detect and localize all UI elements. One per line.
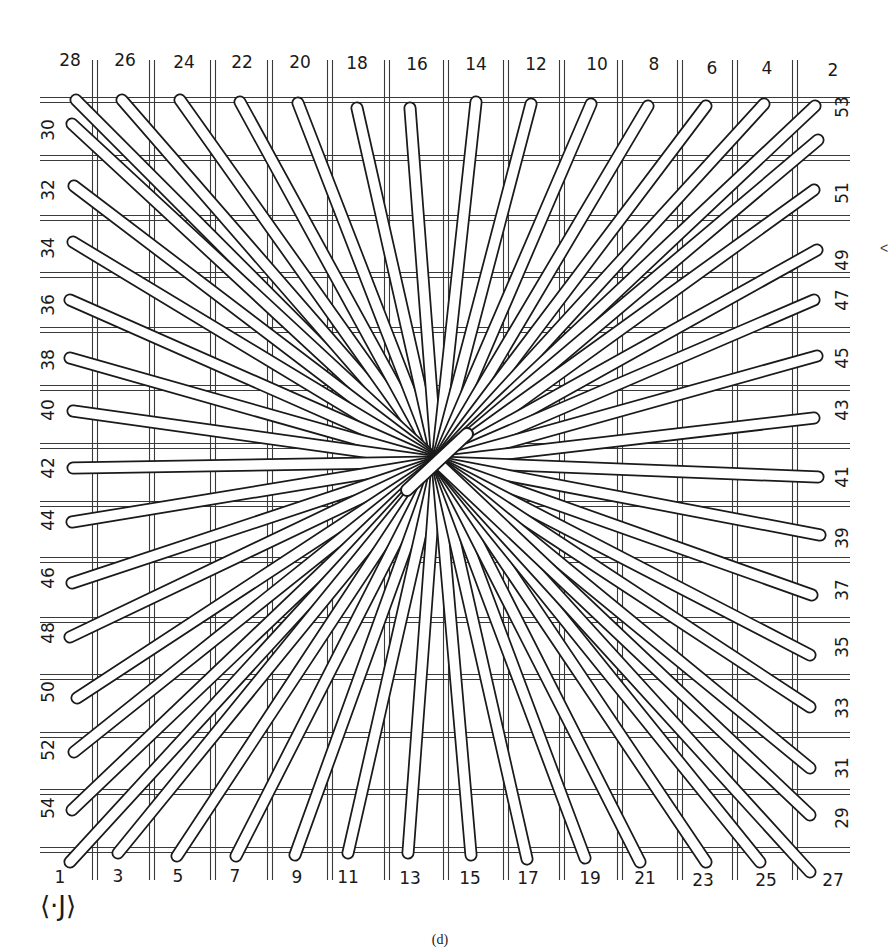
spoke-label-28: 28 bbox=[59, 52, 81, 69]
spoke-label-13: 13 bbox=[399, 870, 421, 887]
spoke-label-51: 51 bbox=[834, 182, 851, 204]
corner-mark: ⟨·J⟩ bbox=[40, 891, 76, 921]
spoke-label-5: 5 bbox=[173, 868, 184, 885]
spoke-label-54: 54 bbox=[40, 797, 57, 819]
spoke-label-20: 20 bbox=[289, 54, 311, 71]
spoke-label-37: 37 bbox=[834, 579, 851, 601]
spoke-label-53: 53 bbox=[834, 96, 851, 118]
spoke-label-1: 1 bbox=[55, 869, 66, 886]
spoke-label-27: 27 bbox=[822, 872, 844, 889]
spoke-label-40: 40 bbox=[40, 399, 57, 421]
spoke-label-2: 2 bbox=[828, 62, 839, 79]
spoke-label-9: 9 bbox=[292, 869, 303, 886]
spoke-label-26: 26 bbox=[114, 52, 136, 69]
spoke-label-11: 11 bbox=[337, 869, 359, 886]
spoke-label-32: 32 bbox=[40, 179, 57, 201]
figure-caption: (d) bbox=[432, 932, 448, 948]
spoke-label-3: 3 bbox=[113, 868, 124, 885]
spoke-label-6: 6 bbox=[707, 60, 718, 77]
spoke-label-25: 25 bbox=[755, 872, 777, 889]
spoke-label-19: 19 bbox=[579, 870, 601, 887]
spoke-label-23: 23 bbox=[692, 872, 714, 889]
spoke-label-44: 44 bbox=[40, 509, 57, 531]
spoke-label-15: 15 bbox=[459, 870, 481, 887]
spoke-label-46: 46 bbox=[40, 567, 57, 589]
spoke-label-4: 4 bbox=[762, 60, 773, 77]
edge-mark: < bbox=[880, 240, 888, 256]
spoke-label-34: 34 bbox=[40, 237, 57, 259]
spoke-label-42: 42 bbox=[40, 457, 57, 479]
spoke-label-33: 33 bbox=[834, 697, 851, 719]
spoke-label-12: 12 bbox=[525, 56, 547, 73]
spoke-label-14: 14 bbox=[465, 56, 487, 73]
spoke-label-41: 41 bbox=[834, 466, 851, 488]
spoke-label-52: 52 bbox=[40, 739, 57, 761]
spoke-label-36: 36 bbox=[40, 294, 57, 316]
spoke-label-35: 35 bbox=[834, 636, 851, 658]
spoke-label-43: 43 bbox=[834, 399, 851, 421]
spoke-label-48: 48 bbox=[40, 622, 57, 644]
spoke-29 bbox=[437, 462, 810, 815]
spoke-label-47: 47 bbox=[834, 289, 851, 311]
spoke-label-50: 50 bbox=[40, 681, 57, 703]
spoke-label-18: 18 bbox=[346, 55, 368, 72]
spoke-label-39: 39 bbox=[834, 527, 851, 549]
spoke-label-7: 7 bbox=[230, 868, 241, 885]
spoke-label-49: 49 bbox=[834, 249, 851, 271]
spoke-label-17: 17 bbox=[517, 870, 539, 887]
spoke-label-29: 29 bbox=[834, 807, 851, 829]
spoke-label-24: 24 bbox=[173, 54, 195, 71]
spoke-label-8: 8 bbox=[649, 56, 660, 73]
spoke-label-21: 21 bbox=[634, 870, 656, 887]
spoke-label-45: 45 bbox=[834, 347, 851, 369]
spoke-label-30: 30 bbox=[40, 119, 57, 141]
spoke-label-16: 16 bbox=[406, 56, 428, 73]
spoke-label-38: 38 bbox=[40, 349, 57, 371]
spoke-label-10: 10 bbox=[586, 56, 608, 73]
spoke-label-31: 31 bbox=[834, 757, 851, 779]
spoke-label-22: 22 bbox=[231, 54, 253, 71]
